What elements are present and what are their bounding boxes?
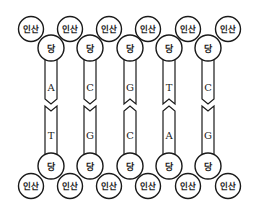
base-label-top: C xyxy=(204,82,212,93)
phosphate-label: 인산 xyxy=(220,24,236,34)
base-label-top: C xyxy=(86,82,94,93)
phosphate-label: 인산 xyxy=(62,24,78,34)
top-backbone: 당당당당당인산인산인산인산인산인산 xyxy=(19,17,241,62)
base-label-bottom: G xyxy=(204,130,212,141)
sugar-label: 당 xyxy=(165,161,174,172)
dna-diagram: ATCGGCTACG 당당당당당인산인산인산인산인산인산 당당당당당인산인산인산… xyxy=(0,0,261,216)
phosphate-label: 인산 xyxy=(23,24,39,34)
phosphate-label: 인산 xyxy=(220,181,236,191)
base-label-top: A xyxy=(46,82,55,93)
base-label-bottom: C xyxy=(126,130,134,141)
sugar-label: 당 xyxy=(86,43,95,54)
sugar-label: 당 xyxy=(47,161,56,172)
phosphate-label: 인산 xyxy=(180,24,196,34)
dna-double-strand: ATCGGCTACG 당당당당당인산인산인산인산인산인산 당당당당당인산인산인산… xyxy=(0,0,261,216)
sugar-label: 당 xyxy=(165,43,174,54)
sugar-label: 당 xyxy=(126,161,135,172)
sugar-label: 당 xyxy=(47,43,56,54)
base-label-top: G xyxy=(126,82,134,93)
phosphate-label: 인산 xyxy=(101,24,117,34)
sugar-label: 당 xyxy=(126,43,135,54)
phosphate-label: 인산 xyxy=(140,24,156,34)
bottom-backbone: 당당당당당인산인산인산인산인산인산 xyxy=(19,153,241,199)
phosphate-label: 인산 xyxy=(140,181,156,191)
phosphate-label: 인산 xyxy=(180,181,196,191)
base-label-bottom: T xyxy=(48,130,55,141)
base-strips: ATCGGCTACG xyxy=(45,52,214,162)
base-label-top: T xyxy=(166,82,173,93)
sugar-label: 당 xyxy=(86,161,95,172)
base-label-bottom: G xyxy=(86,130,94,141)
phosphate-label: 인산 xyxy=(101,181,117,191)
base-label-bottom: A xyxy=(164,130,173,141)
phosphate-label: 인산 xyxy=(62,181,78,191)
sugar-label: 당 xyxy=(204,43,213,54)
phosphate-label: 인산 xyxy=(23,181,39,191)
sugar-label: 당 xyxy=(204,161,213,172)
